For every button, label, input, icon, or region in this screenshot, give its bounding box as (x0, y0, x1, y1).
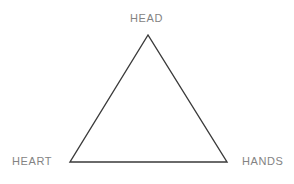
vertex-label-hands: HANDS (242, 155, 284, 167)
diagram-canvas: HEAD HEART HANDS (0, 0, 294, 184)
vertex-label-heart: HEART (12, 155, 52, 167)
vertex-label-head: HEAD (130, 12, 163, 24)
triangle-shape (70, 35, 227, 162)
